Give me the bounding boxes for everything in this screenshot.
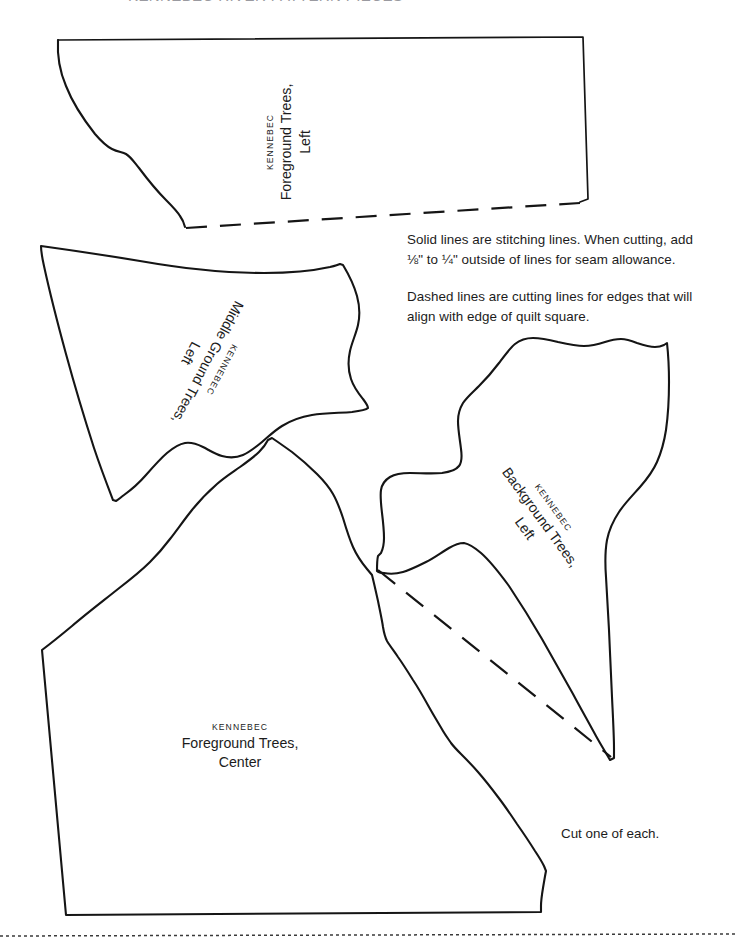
piece-outline-foreground-trees-center bbox=[42, 438, 546, 915]
pattern-pieces-drawing bbox=[0, 0, 736, 949]
piece-brand: KENNEBEC bbox=[182, 721, 299, 734]
piece-outline-background-trees-left bbox=[377, 338, 669, 760]
solid-stitching-line bbox=[377, 338, 669, 760]
piece-outline-foreground-trees-left bbox=[58, 37, 588, 228]
piece-sub: Left bbox=[295, 84, 314, 201]
piece-brand: KENNEBEC bbox=[264, 84, 277, 201]
piece-label-foreground-trees-center: KENNEBEC Foreground Trees, Center bbox=[182, 721, 299, 771]
cut-quantity-note: Cut one of each. bbox=[561, 824, 659, 844]
piece-sub: Center bbox=[182, 752, 299, 771]
instruction-seam-allowance: Solid lines are stitching lines. When cu… bbox=[407, 230, 707, 271]
instruction-cutting-lines: Dashed lines are cutting lines for edges… bbox=[407, 287, 707, 328]
solid-stitching-line bbox=[58, 37, 588, 202]
pattern-sheet-page: KENNEBEC RIVER PATTERN PIECES K bbox=[0, 0, 736, 949]
dashed-cutting-line bbox=[378, 570, 611, 757]
instructions-block: Solid lines are stitching lines. When cu… bbox=[407, 230, 707, 328]
piece-name: Foreground Trees, bbox=[182, 734, 299, 753]
dashed-cutting-line bbox=[186, 203, 580, 228]
piece-name: Foreground Trees, bbox=[277, 84, 296, 201]
solid-stitching-line bbox=[42, 438, 546, 915]
page-trim-dotted-line bbox=[0, 934, 736, 936]
solid-stitching-line bbox=[58, 40, 185, 227]
piece-label-foreground-trees-left: KENNEBEC Foreground Trees, Left bbox=[264, 84, 314, 201]
